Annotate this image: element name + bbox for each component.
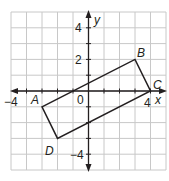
x-axis-label: x	[154, 93, 162, 107]
y-tick-label-pos4: 4	[75, 21, 82, 35]
y-axis-label: y	[93, 13, 101, 27]
y-tick-label-pos2: 2	[75, 53, 82, 67]
x-tick-label-neg4: −4	[4, 95, 18, 109]
vertex-label-a: A	[30, 93, 39, 107]
vertex-label-d: D	[45, 144, 54, 158]
y-axis-up-arrow-icon	[86, 10, 92, 18]
y-axis-down-arrow-icon	[86, 164, 92, 172]
coordinate-plane: −4 4 0 4 2 −4 y x A B C D	[0, 0, 169, 181]
rectangle-abcd	[42, 59, 151, 138]
origin-label: 0	[77, 93, 84, 107]
vertex-label-b: B	[137, 46, 145, 60]
y-tick-label-neg4: −4	[70, 148, 84, 162]
vertex-label-c: C	[153, 78, 162, 92]
x-tick-label-pos4: 4	[144, 96, 151, 110]
